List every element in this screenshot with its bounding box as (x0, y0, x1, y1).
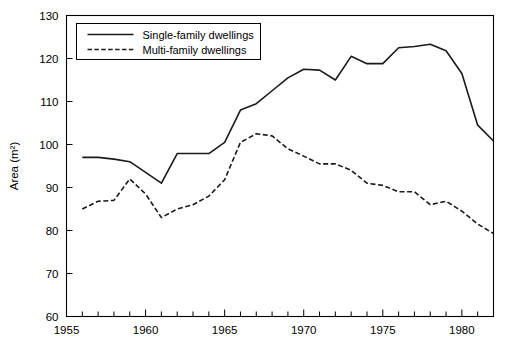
series-line-1 (82, 44, 493, 183)
y-tick-label: 70 (46, 268, 59, 280)
y-axis-title: Area (m²) (8, 142, 20, 191)
y-tick-label: 60 (46, 311, 59, 323)
x-tick-label: 1980 (449, 324, 475, 336)
y-tick-label: 100 (39, 139, 58, 151)
x-axis-tick-labels: 195519601965197019751980 (54, 324, 475, 336)
series-line-2 (82, 134, 493, 234)
y-tick-label: 80 (46, 225, 59, 237)
y-axis-tick-labels: 60708090100110120130 (39, 10, 58, 323)
y-tick-label: 120 (39, 53, 58, 65)
x-tick-label: 1965 (212, 324, 238, 336)
line-chart: 60708090100110120130 1955196019651970197… (0, 0, 511, 358)
chart-container: 60708090100110120130 1955196019651970197… (0, 0, 511, 358)
axis-tick-marks (67, 16, 494, 317)
y-tick-label: 90 (46, 182, 59, 194)
x-tick-label: 1970 (291, 324, 317, 336)
y-tick-label: 130 (39, 10, 58, 22)
x-tick-label: 1955 (54, 324, 80, 336)
chart-legend: Single-family dwellingsMulti-family dwel… (77, 24, 261, 60)
x-tick-label: 1960 (133, 324, 159, 336)
y-tick-label: 110 (40, 96, 58, 108)
legend-label-1: Single-family dwellings (143, 29, 255, 41)
plot-frame (67, 16, 494, 317)
legend-label-2: Multi-family dwellings (143, 44, 247, 56)
data-series-group (82, 44, 493, 233)
x-tick-label: 1975 (370, 324, 396, 336)
